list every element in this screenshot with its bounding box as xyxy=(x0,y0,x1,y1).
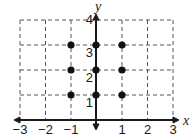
x-tick-label: 3 xyxy=(169,122,176,137)
x-tick-label: −3 xyxy=(13,122,28,137)
coordinate-plane: −3 −2 −1 1 2 3 1 2 3 4 x y xyxy=(0,0,196,137)
point xyxy=(92,91,99,98)
y-axis-down-arrow-icon xyxy=(93,124,99,130)
x-tick-label: 1 xyxy=(118,122,125,137)
y-axis-label: y xyxy=(93,0,102,14)
x-tick-label: 2 xyxy=(144,122,151,137)
x-axis-label: x xyxy=(182,113,190,128)
point xyxy=(67,41,74,48)
point xyxy=(118,41,125,48)
point xyxy=(92,41,99,48)
y-tick-label: 2 xyxy=(86,70,93,85)
point xyxy=(118,91,125,98)
point xyxy=(92,66,99,73)
y-tick-label: 1 xyxy=(86,95,93,110)
y-tick-label: 3 xyxy=(86,45,93,60)
x-tick-label: −1 xyxy=(64,122,79,137)
point xyxy=(67,66,74,73)
point xyxy=(118,66,125,73)
point xyxy=(67,91,74,98)
y-tick-label: 4 xyxy=(86,12,93,27)
y-axis-up-arrow-icon xyxy=(93,14,99,20)
x-tick-label: −2 xyxy=(38,122,53,137)
